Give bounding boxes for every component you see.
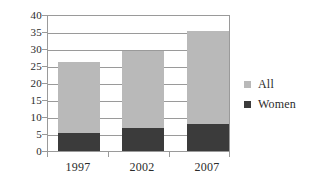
y-tick-label-35: 35	[2, 27, 42, 38]
x-tick-mark-2	[169, 152, 170, 157]
y-tick-label-40: 40	[2, 10, 42, 21]
y-tick-label-15: 15	[2, 95, 42, 106]
y-tick-label-25: 25	[2, 61, 42, 72]
legend-label-all: All	[258, 78, 274, 91]
y-tick-label-20: 20	[2, 78, 42, 89]
bar-segment-all-1997	[58, 62, 100, 133]
y-tick-label-30: 30	[2, 44, 42, 55]
legend-label-women: Women	[258, 98, 296, 111]
legend-swatch-all-icon	[244, 81, 251, 88]
bar-segment-women-2007	[187, 124, 229, 151]
x-tick-mark-right	[229, 152, 230, 157]
bar-segment-women-1997	[58, 133, 100, 151]
bar-chart: 40 35 30 25 20 15 10 5 0	[0, 0, 314, 182]
x-tick-mark-1	[108, 152, 109, 157]
bar-segment-all-2007	[187, 31, 229, 124]
x-tick-mark-left	[47, 152, 48, 157]
bar-segment-women-2002	[122, 128, 164, 151]
bar-group-1997	[58, 62, 100, 151]
y-tick-label-0: 0	[2, 146, 42, 157]
legend-swatch-women-icon	[244, 101, 251, 108]
bar-group-2007	[187, 31, 229, 151]
bar-segment-all-2002	[122, 51, 164, 128]
plot-area	[47, 15, 230, 152]
x-tick-label-2007: 2007	[177, 160, 237, 174]
y-tick-label-5: 5	[2, 129, 42, 140]
x-tick-label-2002: 2002	[112, 160, 172, 174]
legend-item-all: All	[244, 74, 296, 94]
legend: All Women	[244, 74, 296, 114]
bar-group-2002	[122, 51, 164, 151]
legend-item-women: Women	[244, 94, 296, 114]
x-tick-label-1997: 1997	[48, 160, 108, 174]
y-tick-label-10: 10	[2, 112, 42, 123]
